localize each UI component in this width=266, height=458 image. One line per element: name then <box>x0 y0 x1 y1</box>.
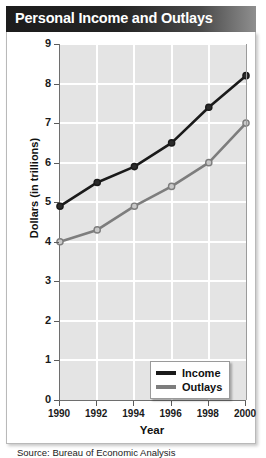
legend-swatch-income <box>156 371 176 375</box>
legend-item-outlays: Outlays <box>156 380 222 394</box>
legend-swatch-outlays <box>156 385 176 389</box>
x-tick-mark-1990 <box>59 401 60 406</box>
x-tick-mark-1996 <box>171 401 172 406</box>
x-tick-mark-1994 <box>133 401 134 406</box>
x-tick-mark-2000 <box>245 401 246 406</box>
x-tick-label-1994: 1994 <box>112 408 154 419</box>
data-point-outlays-1994 <box>131 203 137 209</box>
y-tick-mark-1 <box>54 360 59 361</box>
data-point-outlays-1992 <box>94 227 100 233</box>
source-note: Source: Bureau of Economic Analysis <box>17 447 175 458</box>
legend-label-income: Income <box>182 367 221 379</box>
y-tick-mark-8 <box>54 84 59 85</box>
y-tick-label-3: 3 <box>21 274 51 286</box>
legend-item-income: Income <box>156 366 222 380</box>
y-tick-mark-7 <box>54 123 59 124</box>
y-tick-mark-5 <box>54 202 59 203</box>
y-tick-mark-6 <box>54 163 59 164</box>
plot-right-border <box>246 44 247 400</box>
data-point-income-1992 <box>94 179 100 185</box>
y-tick-label-0: 0 <box>21 393 51 405</box>
series-lines <box>60 44 246 400</box>
x-axis-label: Year <box>59 424 245 436</box>
y-tick-label-1: 1 <box>21 353 51 365</box>
data-point-income-1998 <box>206 104 212 110</box>
x-tick-mark-1998 <box>208 401 209 406</box>
page-title: Personal Income and Outlays <box>15 10 213 26</box>
data-point-income-1990 <box>57 203 63 209</box>
y-tick-mark-3 <box>54 281 59 282</box>
x-tick-label-1990: 1990 <box>38 408 80 419</box>
series-line-income <box>60 76 246 207</box>
series-line-outlays <box>60 123 246 242</box>
x-tick-label-2000: 2000 <box>224 408 266 419</box>
y-tick-label-8: 8 <box>21 77 51 89</box>
legend-label-outlays: Outlays <box>182 381 222 393</box>
chart-panel: 0123456789 199019921994199619982000 Doll… <box>6 32 256 444</box>
chart-legend: Income Outlays <box>150 361 230 399</box>
data-point-income-1996 <box>169 140 175 146</box>
data-point-income-1994 <box>131 164 137 170</box>
y-axis-label: Dollars (in trillions) <box>28 113 40 263</box>
y-tick-mark-9 <box>54 44 59 45</box>
chart-title-bar: Personal Income and Outlays <box>6 6 256 32</box>
x-tick-label-1992: 1992 <box>75 408 117 419</box>
y-tick-mark-4 <box>54 242 59 243</box>
x-tick-mark-1992 <box>96 401 97 406</box>
x-tick-label-1998: 1998 <box>187 408 229 419</box>
data-point-outlays-1996 <box>169 183 175 189</box>
y-tick-label-2: 2 <box>21 314 51 326</box>
y-tick-mark-2 <box>54 321 59 322</box>
data-point-outlays-1998 <box>206 160 212 166</box>
y-tick-label-9: 9 <box>21 37 51 49</box>
plot-area <box>59 44 246 401</box>
x-tick-label-1996: 1996 <box>150 408 192 419</box>
